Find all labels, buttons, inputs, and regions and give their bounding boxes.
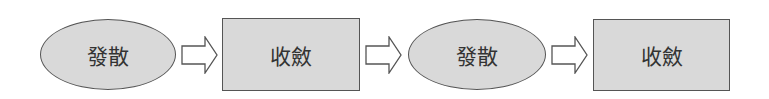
diverge-node-1: 發散	[40, 19, 176, 90]
node-label: 收斂	[641, 40, 683, 70]
node-label: 發散	[456, 40, 498, 70]
right-arrow-icon	[181, 36, 219, 74]
diverge-node-2: 發散	[408, 19, 546, 90]
right-arrow-icon	[365, 36, 403, 74]
node-label: 發散	[87, 40, 129, 70]
converge-node-1: 收斂	[222, 18, 360, 91]
node-label: 收斂	[270, 40, 312, 70]
converge-node-2: 收斂	[593, 19, 730, 91]
right-arrow-icon	[551, 36, 589, 74]
